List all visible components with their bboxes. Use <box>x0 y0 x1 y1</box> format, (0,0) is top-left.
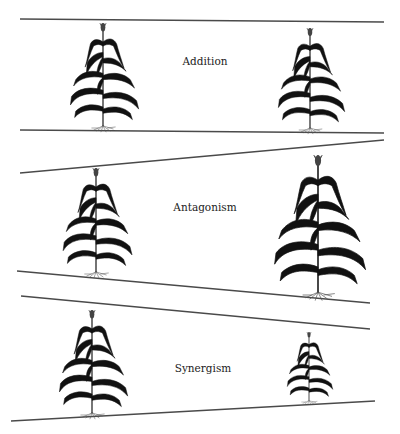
interaction-diagram: Addition Antagonism Synergism <box>0 0 400 434</box>
corn-plant-icon <box>63 168 132 278</box>
antagonism-bottom-line <box>17 271 370 303</box>
corn-plant-large-icon <box>275 155 366 301</box>
addition-top-line <box>20 19 384 22</box>
corn-plant-icon <box>70 23 138 132</box>
panel-synergism: Synergism <box>11 296 375 421</box>
panel-addition: Addition <box>20 19 384 134</box>
synergism-bottom-line <box>11 401 375 421</box>
antagonism-top-line <box>20 140 384 173</box>
label-antagonism: Antagonism <box>172 201 236 213</box>
synergism-top-line <box>21 296 370 329</box>
corn-plant-icon <box>278 28 344 134</box>
corn-plant-small-icon <box>287 332 333 405</box>
label-addition: Addition <box>181 55 227 67</box>
label-synergism: Synergism <box>175 362 232 374</box>
addition-bottom-line <box>20 130 384 133</box>
corn-plant-icon <box>59 310 127 419</box>
panel-antagonism: Antagonism <box>17 140 384 303</box>
